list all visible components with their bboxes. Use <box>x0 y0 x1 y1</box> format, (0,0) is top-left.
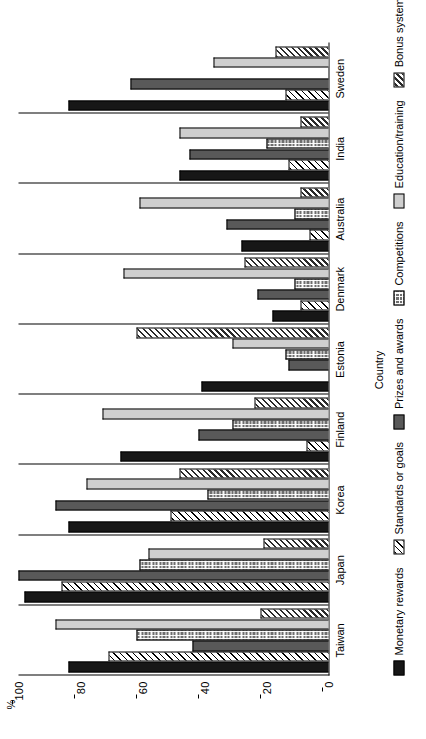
bar-finland-bonus-systems <box>254 397 328 408</box>
bar-sweden-bonus-systems <box>275 46 328 57</box>
bar-india-education-training <box>179 127 328 138</box>
legend-item-prizes-and-awards[interactable]: Prizes and awards <box>392 318 404 429</box>
legend-item-standards-or-goals[interactable]: Standards or goals <box>392 442 404 554</box>
y-tick-mark <box>136 694 137 698</box>
group-separator <box>18 112 328 113</box>
group-separator <box>18 182 328 183</box>
x-tick-label-estonia: Estonia <box>333 324 345 394</box>
bar-finland-competitions <box>232 419 328 430</box>
y-tick-mark <box>260 694 261 698</box>
x-tick-label-sweden: Sweden <box>333 43 345 113</box>
y-tick-mark <box>322 687 323 691</box>
x-tick-label-korea: Korea <box>333 464 345 534</box>
x-axis-label: Country <box>372 0 384 739</box>
bar-taiwan-bonus-systems <box>260 608 328 619</box>
bar-taiwan-competitions <box>136 629 328 640</box>
rotated-figure: % 020406080100TaiwanJapanKoreaFinlandEst… <box>0 0 426 739</box>
y-tick-label-80: 80 <box>74 675 86 694</box>
bar-korea-standards-or-goals <box>170 510 328 521</box>
legend-swatch-competitions <box>393 290 404 305</box>
bar-denmark-monetary-rewards <box>272 310 328 321</box>
bar-taiwan-education-training <box>55 619 328 630</box>
bar-taiwan-monetary-rewards <box>68 662 328 673</box>
bar-australia-education-training <box>139 197 328 208</box>
bar-group-finland: Finland <box>18 394 328 464</box>
bar-korea-prizes-and-awards <box>55 500 328 511</box>
bar-denmark-competitions <box>294 278 328 289</box>
bar-sweden-education-training <box>213 57 328 68</box>
bar-japan-monetary-rewards <box>24 591 328 602</box>
y-tick-label-0: 0 <box>322 675 334 687</box>
group-separator <box>18 323 328 324</box>
legend-item-bonus-systems[interactable]: Bonus systems <box>392 0 404 87</box>
y-tick-mark <box>12 700 13 704</box>
legend-label: Education/training <box>392 100 404 188</box>
bar-denmark-bonus-systems <box>244 257 328 268</box>
bar-sweden-standards-or-goals <box>285 89 328 100</box>
legend-item-competitions[interactable]: Competitions <box>392 221 404 305</box>
bar-japan-competitions <box>139 559 328 570</box>
bar-japan-standards-or-goals <box>61 581 328 592</box>
bar-japan-education-training <box>148 548 328 559</box>
bar-chart: % 020406080100TaiwanJapanKoreaFinlandEst… <box>0 0 426 739</box>
bar-australia-monetary-rewards <box>241 240 328 251</box>
x-tick-label-australia: Australia <box>333 183 345 253</box>
legend-swatch-education-training <box>393 193 404 208</box>
bar-estonia-monetary-rewards <box>201 381 328 392</box>
bar-denmark-education-training <box>123 268 328 279</box>
bar-group-estonia: Estonia <box>18 324 328 394</box>
bar-taiwan-standards-or-goals <box>108 651 328 662</box>
group-separator <box>18 393 328 394</box>
group-separator <box>18 604 328 605</box>
bar-japan-prizes-and-awards <box>18 570 328 581</box>
legend-label: Prizes and awards <box>392 318 404 409</box>
y-tick-label-60: 60 <box>136 675 148 694</box>
chart-legend: Monetary rewardsStandards or goalsPrizes… <box>392 43 404 675</box>
x-tick-label-japan: Japan <box>333 535 345 605</box>
legend-item-education-training[interactable]: Education/training <box>392 100 404 208</box>
bar-finland-prizes-and-awards <box>198 429 328 440</box>
y-tick-label-100: 100 <box>12 675 24 700</box>
legend-swatch-standards-or-goals <box>393 539 404 554</box>
bar-india-prizes-and-awards <box>189 149 329 160</box>
group-separator <box>18 463 328 464</box>
legend-item-monetary-rewards[interactable]: Monetary rewards <box>392 567 404 675</box>
legend-label: Bonus systems <box>392 0 404 67</box>
bar-estonia-bonus-systems <box>136 327 328 338</box>
bar-group-denmark: Denmark <box>18 254 328 324</box>
bar-sweden-monetary-rewards <box>68 100 328 111</box>
y-tick-mark <box>74 694 75 698</box>
bar-india-bonus-systems <box>300 116 328 127</box>
y-tick-label-40: 40 <box>198 675 210 694</box>
y-axis-label: % <box>4 699 16 709</box>
bar-group-sweden: Sweden <box>18 43 328 113</box>
plot-area: 020406080100TaiwanJapanKoreaFinlandEston… <box>18 43 328 675</box>
bar-estonia-competitions <box>285 349 328 360</box>
group-separator <box>18 534 328 535</box>
y-tick-label-20: 20 <box>260 675 272 694</box>
bar-india-monetary-rewards <box>179 170 328 181</box>
legend-swatch-bonus-systems <box>393 72 404 87</box>
bar-group-korea: Korea <box>18 464 328 534</box>
bar-australia-bonus-systems <box>300 187 328 198</box>
bar-australia-prizes-and-awards <box>226 219 328 230</box>
bar-taiwan-prizes-and-awards <box>192 640 328 651</box>
bar-korea-competitions <box>207 489 328 500</box>
bar-australia-standards-or-goals <box>309 229 328 240</box>
bar-japan-bonus-systems <box>263 538 328 549</box>
bar-group-australia: Australia <box>18 183 328 253</box>
bar-group-india: India <box>18 113 328 183</box>
bar-sweden-prizes-and-awards <box>130 78 328 89</box>
bar-india-standards-or-goals <box>288 159 328 170</box>
bar-finland-monetary-rewards <box>120 451 328 462</box>
legend-swatch-prizes-and-awards <box>393 414 404 429</box>
x-tick-label-taiwan: Taiwan <box>333 605 345 675</box>
bar-denmark-prizes-and-awards <box>257 289 328 300</box>
bar-korea-education-training <box>86 478 328 489</box>
group-separator <box>18 253 328 254</box>
bar-finland-education-training <box>102 408 328 419</box>
bar-australia-competitions <box>294 208 328 219</box>
bar-estonia-prizes-and-awards <box>288 359 328 370</box>
x-tick-label-denmark: Denmark <box>333 254 345 324</box>
bar-korea-monetary-rewards <box>68 521 328 532</box>
